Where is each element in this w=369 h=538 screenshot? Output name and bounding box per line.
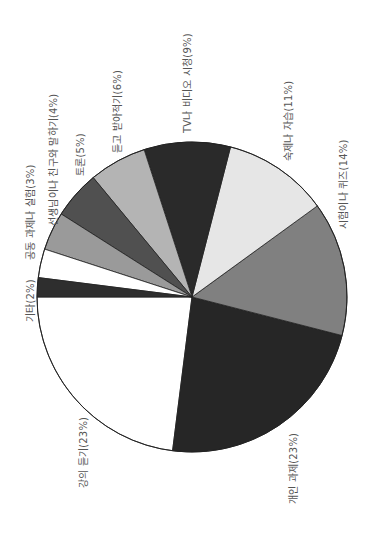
pie-slice <box>37 297 192 451</box>
slice-label: 선생님이나 친구와 말하기(4%) <box>45 94 60 226</box>
slice-label: 토론(5%) <box>72 133 87 176</box>
slice-label: 숙제나 자습(11%) <box>280 81 295 161</box>
slice-label: TV나 비디오 시청(9%) <box>179 33 194 133</box>
slice-label: 공동 과제나 실험(3%) <box>22 164 37 260</box>
slice-label: 듣고 받아적기(6%) <box>109 70 124 153</box>
slice-label: 시험이나 퀴즈(14%) <box>335 139 350 229</box>
slice-label: 기타(2%) <box>22 279 37 322</box>
slice-label: 개인 과제(23%) <box>285 433 300 504</box>
slice-label: 강의 듣기(23%) <box>75 417 90 488</box>
